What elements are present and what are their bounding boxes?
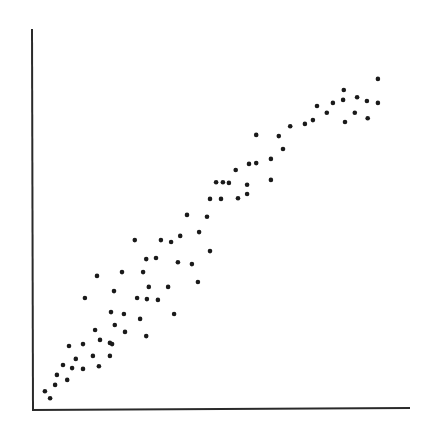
data-point [53,383,58,388]
data-point [277,134,282,139]
data-point [91,354,96,359]
data-point [221,180,226,185]
data-point [133,238,138,243]
data-point [353,111,358,116]
data-point [315,104,320,109]
data-point [190,262,195,267]
data-point [205,215,210,220]
data-point [74,357,79,362]
data-point [144,257,149,262]
data-point [109,310,114,315]
data-point [112,289,117,294]
data-point [376,77,381,82]
data-point [303,122,308,127]
data-point [311,118,316,123]
data-point [156,298,161,303]
data-point [254,133,259,138]
data-point [355,95,360,100]
data-point [138,317,143,322]
data-point [269,157,274,162]
data-point [365,99,370,104]
data-point [81,367,86,372]
data-point [97,364,102,369]
data-point [65,378,70,383]
data-point [83,296,88,301]
data-point [61,363,66,368]
data-point [145,297,150,302]
data-point [110,342,115,347]
data-point [141,270,146,275]
data-point [172,312,177,317]
data-point [208,249,213,254]
data-point [341,98,346,103]
data-point [81,342,86,347]
data-point [147,285,152,290]
x-axis-line [32,408,410,410]
data-point [98,338,103,343]
data-point [342,88,347,93]
data-point [67,344,72,349]
data-point [219,197,224,202]
data-point [159,238,164,243]
scatter-plot-canvas [0,0,432,435]
data-point [281,147,286,152]
data-point [245,192,250,197]
data-point [245,183,250,188]
y-axis-line [32,29,33,411]
data-point [236,196,241,201]
data-point [376,101,381,106]
data-point [288,124,293,129]
data-point [254,161,259,166]
data-point [196,280,201,285]
data-point [144,334,149,339]
data-point [70,366,75,371]
data-point [269,178,274,183]
data-point [247,162,252,167]
data-point [122,312,127,317]
data-point [176,260,181,265]
data-point [166,285,171,290]
data-point [343,120,348,125]
data-points [43,77,381,401]
data-point [365,116,370,121]
data-point [95,274,100,279]
data-point [123,330,128,335]
data-point [113,323,118,328]
data-point [48,396,53,401]
data-point [208,197,213,202]
data-point [169,240,174,245]
data-point [197,230,202,235]
data-point [185,213,190,218]
data-point [108,354,113,359]
data-point [178,234,183,239]
data-point [214,180,219,185]
data-point [154,256,159,261]
data-point [325,111,330,116]
data-point [93,328,98,333]
data-point [331,101,336,106]
data-point [120,270,125,275]
data-point [227,181,232,186]
scatter-chart [0,0,432,435]
data-point [135,296,140,301]
data-point [233,168,238,173]
data-point [43,389,48,394]
data-point [55,373,60,378]
